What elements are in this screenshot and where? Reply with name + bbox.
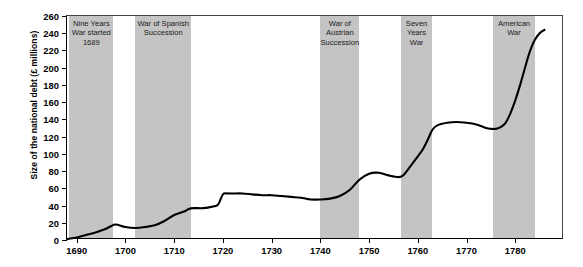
y-tick-label: 0 <box>54 235 59 246</box>
y-tick <box>62 68 67 69</box>
y-tick <box>62 240 67 241</box>
y-tick-label: 80 <box>49 166 59 177</box>
x-tick <box>418 238 419 243</box>
x-tick-label: 1780 <box>505 245 526 256</box>
x-tick-label: 1740 <box>310 245 331 256</box>
x-tick <box>515 238 516 243</box>
x-tick-label: 1720 <box>212 245 233 256</box>
y-tick <box>62 223 67 224</box>
x-tick-label: 1710 <box>164 245 185 256</box>
x-tick-label: 1760 <box>407 245 428 256</box>
y-tick <box>62 206 67 207</box>
y-tick <box>62 33 67 34</box>
x-tick-label: 1730 <box>261 245 282 256</box>
x-tick-label: 1700 <box>115 245 136 256</box>
x-tick-label: 1690 <box>66 245 87 256</box>
y-tick-label: 240 <box>43 28 59 39</box>
x-tick-label: 1750 <box>359 245 380 256</box>
x-tick <box>77 238 78 243</box>
y-tick <box>62 119 67 120</box>
x-tick <box>125 238 126 243</box>
y-tick-label: 260 <box>43 11 59 22</box>
y-tick <box>62 50 67 51</box>
x-tick <box>223 238 224 243</box>
y-tick <box>62 85 67 86</box>
y-tick-label: 140 <box>43 114 59 125</box>
x-tick <box>272 238 273 243</box>
y-axis-title: Size of the national debt (£ millions) <box>29 15 39 195</box>
x-tick <box>320 238 321 243</box>
y-tick-label: 20 <box>49 217 59 228</box>
y-tick-label: 60 <box>49 183 59 194</box>
debt-line-series <box>67 16 564 240</box>
y-tick-label: 220 <box>43 45 59 56</box>
y-tick <box>62 102 67 103</box>
y-tick <box>62 137 67 138</box>
y-tick <box>62 171 67 172</box>
x-tick-label: 1770 <box>456 245 477 256</box>
plot-area: Nine Years War started 1689War of Spanis… <box>66 15 563 239</box>
y-tick-label: 40 <box>49 200 59 211</box>
y-tick <box>62 188 67 189</box>
y-tick <box>62 154 67 155</box>
y-tick-label: 120 <box>43 131 59 142</box>
y-tick-label: 160 <box>43 97 59 108</box>
y-tick-label: 200 <box>43 62 59 73</box>
x-tick <box>467 238 468 243</box>
y-tick <box>62 16 67 17</box>
x-tick <box>369 238 370 243</box>
y-tick-label: 180 <box>43 79 59 90</box>
x-tick <box>174 238 175 243</box>
chart-root: Size of the national debt (£ millions) N… <box>0 0 583 267</box>
debt-line-path <box>67 30 545 239</box>
y-tick-label: 100 <box>43 148 59 159</box>
